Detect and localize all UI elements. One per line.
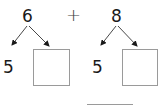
plus-operator: + xyxy=(66,6,81,24)
left-unknown-part-box[interactable] xyxy=(33,49,70,86)
left-top-number: 6 xyxy=(22,8,33,25)
right-number-bond-arrows xyxy=(101,26,137,46)
right-top-number: 8 xyxy=(111,8,122,25)
left-number-bond-arrows xyxy=(12,26,49,46)
answer-line[interactable] xyxy=(87,104,133,105)
right-unknown-part-box[interactable] xyxy=(122,49,158,86)
right-known-part: 5 xyxy=(92,59,103,76)
left-known-part: 5 xyxy=(3,59,14,76)
